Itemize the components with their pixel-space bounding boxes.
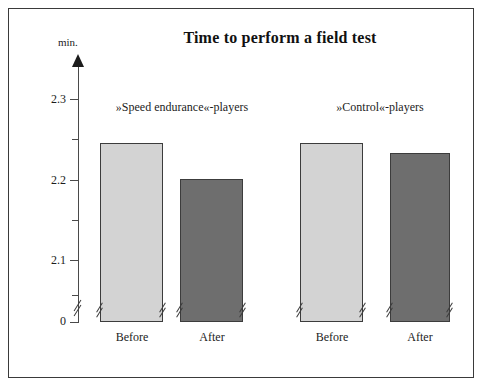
y-tick-label-0: 0 [36,314,66,329]
group-label-control: »Control«-players [320,100,440,115]
bar-label-g1-after: After [167,330,257,345]
y-tick-0 [70,322,79,323]
y-tick-label-2-1: 2.1 [36,253,66,268]
y-tick-2-2 [70,180,79,181]
group-label-speed-endurance: »Speed endurance«-players [107,100,257,115]
y-axis-line [78,64,79,322]
y-tick-2-1 [70,260,79,261]
y-tick-label-2-3: 2.3 [36,92,66,107]
bar-label-g2-after: After [375,330,465,345]
y-axis-arrow-icon [72,54,84,67]
chart-figure: Time to perform a field test min. 2.3 2.… [0,0,486,390]
bar-label-g1-before: Before [87,330,177,345]
bar-group1-before [100,143,163,322]
y-axis-unit-label: min. [58,36,78,48]
y-tick-minor-2-05 [72,295,79,296]
bar-group2-after [390,153,450,322]
chart-title: Time to perform a field test [120,29,440,47]
bar-group1-after [180,179,243,322]
y-tick-2-3 [70,99,79,100]
bar-group2-before [300,143,363,322]
y-tick-minor-2-15 [72,220,79,221]
axis-break-icon [70,300,88,318]
y-tick-label-2-2: 2.2 [36,173,66,188]
y-tick-minor-2-25 [72,139,79,140]
bar-label-g2-before: Before [287,330,377,345]
